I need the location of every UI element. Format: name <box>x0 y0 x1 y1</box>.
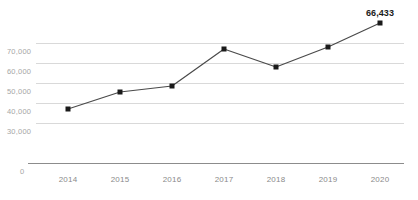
y-tick-label-50000: 50,000 <box>7 87 31 96</box>
y-tick-label-30000: 30,000 <box>7 127 31 136</box>
x-tick-label-2018: 2018 <box>267 175 286 184</box>
y-tick-label-0: 0 <box>20 167 24 176</box>
data-label-group: 66,433 <box>366 8 394 18</box>
data-point-2020[interactable] <box>378 21 383 26</box>
data-point-2014[interactable] <box>66 107 71 112</box>
x-tick-label-2019: 2019 <box>319 175 338 184</box>
y-tick-label-70000: 70,000 <box>7 47 31 56</box>
x-tick-label-2017: 2017 <box>215 175 234 184</box>
chart-canvas: 70,000 60,000 50,000 40,000 30,000 0 66,… <box>0 0 418 200</box>
data-point-2015[interactable] <box>118 90 123 95</box>
x-tick-label-2016: 2016 <box>163 175 182 184</box>
series-line-path <box>68 23 380 109</box>
data-point-2018[interactable] <box>274 65 279 70</box>
y-tick-label-60000: 60,000 <box>7 67 31 76</box>
x-axis-tick-labels: 2014 2015 2016 2017 2018 2019 2020 <box>59 175 390 184</box>
line-chart: 70,000 60,000 50,000 40,000 30,000 0 66,… <box>0 0 418 200</box>
data-point-2017[interactable] <box>222 47 227 52</box>
x-tick-label-2014: 2014 <box>59 175 78 184</box>
series-group <box>66 21 383 112</box>
x-tick-label-2015: 2015 <box>111 175 130 184</box>
x-tick-label-2020: 2020 <box>371 175 390 184</box>
y-tick-label-40000: 40,000 <box>7 107 31 116</box>
data-point-2019[interactable] <box>326 45 331 50</box>
data-point-2016[interactable] <box>170 84 175 89</box>
data-label-2020: 66,433 <box>366 8 394 18</box>
y-axis-tick-labels: 70,000 60,000 50,000 40,000 30,000 0 <box>7 47 31 176</box>
